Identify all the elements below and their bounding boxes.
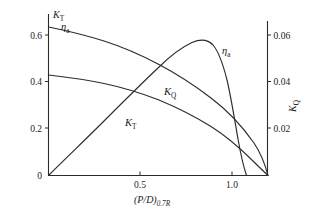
tick-label-left-0.2: 0.2 — [30, 124, 42, 134]
axis-group — [48, 14, 268, 176]
y-axis-right-title: KQ — [287, 99, 301, 113]
curve-eta-a — [49, 40, 247, 175]
x-axis-ticks — [140, 172, 232, 176]
tick-label-x-1.0: 1.0 — [226, 180, 238, 190]
curves-group — [49, 27, 269, 176]
curve-label-kt: KT — [124, 117, 137, 131]
tick-label-x-0.5: 0.5 — [134, 180, 146, 190]
y-axis-left-tick-labels: 0 0.2 0.4 0.6 — [30, 31, 42, 182]
tick-label-left-0.4: 0.4 — [30, 77, 42, 87]
curve-label-kt-sub: T — [132, 123, 137, 131]
tick-label-left-0: 0 — [37, 171, 42, 181]
plot-canvas: 0 0.2 0.4 0.6 0.02 0.04 0.06 0.5 1.0 KT … — [0, 0, 317, 212]
curve-label-eta-a-right: ηa — [222, 45, 231, 59]
x-axis-title-sub: 0.7R — [157, 200, 171, 208]
curve-label-kq: KQ — [163, 86, 177, 100]
chart-figure: 0 0.2 0.4 0.6 0.02 0.04 0.06 0.5 1.0 KT … — [0, 0, 317, 212]
x-axis-title-main: (P/D) — [134, 194, 157, 206]
curve-label-eta-a-top-sub: a — [66, 27, 70, 35]
y-axis-right-title-sub: Q — [293, 99, 301, 105]
tick-label-right-0.02: 0.02 — [274, 124, 291, 134]
x-axis-title: (P/D)0.7R — [134, 194, 171, 208]
y-axis-right-tick-labels: 0.02 0.04 0.06 — [274, 31, 291, 134]
tick-label-left-0.6: 0.6 — [30, 31, 42, 41]
curve-label-kq-sub: Q — [171, 92, 177, 100]
tick-label-right-0.04: 0.04 — [274, 77, 291, 87]
curve-kq — [49, 27, 269, 176]
x-axis-tick-labels: 0.5 1.0 — [134, 180, 238, 190]
curve-label-eta-a-top: ηa — [61, 21, 70, 35]
tick-label-right-0.06: 0.06 — [274, 31, 291, 41]
curve-label-eta-a-right-sub: a — [227, 51, 231, 59]
